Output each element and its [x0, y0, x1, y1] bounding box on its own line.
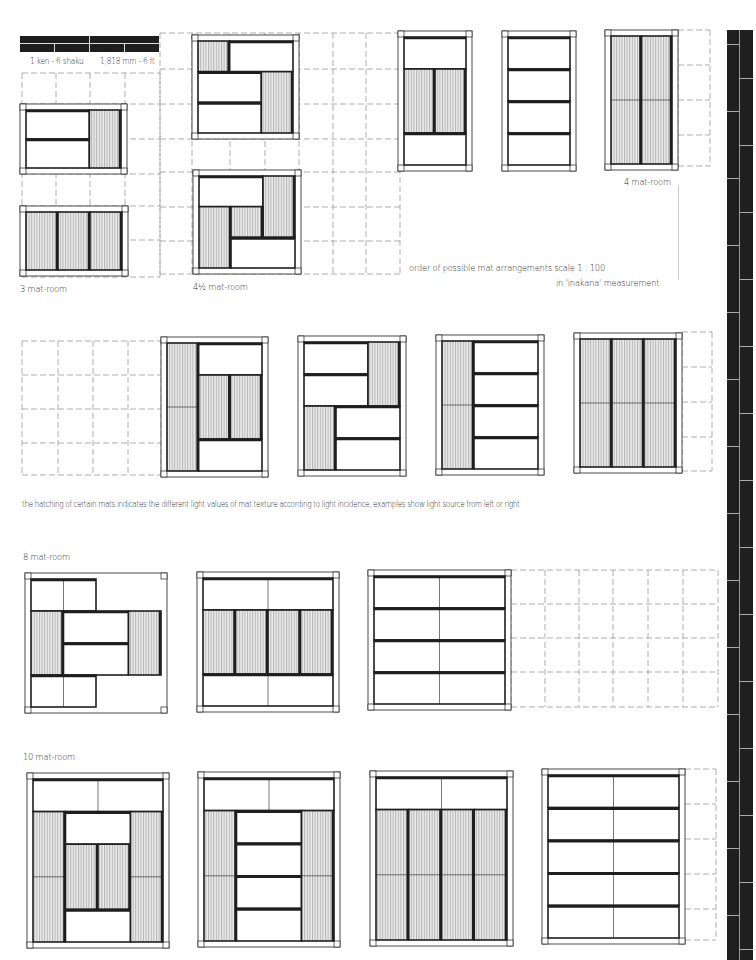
- room-plan-r8c: [368, 570, 511, 710]
- corner-post: [198, 941, 204, 947]
- corner-post: [198, 772, 204, 778]
- diagram-canvas: [0, 0, 756, 960]
- mat-plain: [508, 69, 570, 101]
- mat-plain: [304, 374, 368, 406]
- grid-g-10-right: [685, 769, 716, 940]
- mat-hatched: [435, 69, 466, 133]
- corner-post: [436, 469, 442, 475]
- corner-post: [20, 206, 26, 212]
- edge-bar-tick: [727, 714, 739, 715]
- edge-bar-tick: [739, 815, 753, 816]
- room-plans: [20, 30, 685, 948]
- grid-g-top-right: [678, 30, 710, 166]
- corner-post: [27, 942, 33, 948]
- label-4-mat-room: 4 mat-room: [624, 177, 671, 187]
- corner-post: [466, 165, 472, 171]
- edge-bar-tick: [739, 212, 753, 213]
- corner-post: [262, 471, 268, 477]
- grid-g-mid-right: [682, 332, 712, 471]
- corner-post: [676, 467, 682, 473]
- mat-plain: [404, 133, 466, 165]
- mat-plain: [474, 405, 538, 437]
- mat-hatched: [90, 212, 122, 270]
- mat-plain: [237, 811, 302, 844]
- corner-post: [574, 333, 580, 339]
- corner-post: [197, 706, 203, 712]
- corner-post: [570, 165, 576, 171]
- mat-plain: [336, 406, 400, 438]
- corner-post: [161, 573, 167, 579]
- room-plan-r10b: [198, 772, 340, 947]
- edge-bar-tick: [739, 949, 753, 950]
- mat-plain: [64, 611, 129, 643]
- corner-post: [400, 470, 406, 476]
- mat-hatched: [58, 212, 90, 270]
- corner-post: [538, 469, 544, 475]
- corner-post: [25, 707, 31, 713]
- room-plan-r6a: [161, 337, 268, 477]
- corner-post: [672, 30, 678, 36]
- corner-post: [542, 938, 548, 944]
- mat-plain: [474, 437, 538, 469]
- edge-bar-tick: [727, 647, 739, 648]
- edge-bar-tick: [739, 681, 753, 682]
- mat-plain: [64, 643, 129, 675]
- mat-hatched: [203, 610, 236, 674]
- corner-post: [679, 769, 685, 775]
- scale-bar: [20, 36, 159, 52]
- corner-post: [20, 104, 26, 110]
- corner-post: [370, 771, 376, 777]
- corner-post: [398, 31, 404, 37]
- corner-post: [605, 164, 611, 170]
- corner-post: [679, 938, 685, 944]
- corner-post: [192, 133, 198, 139]
- mat-plain: [237, 908, 302, 941]
- corner-post: [542, 769, 548, 775]
- label-inakana-measurement: in 'inakana' measurement: [556, 278, 659, 288]
- corner-post: [27, 773, 33, 779]
- scale-bar-tick: [89, 36, 90, 52]
- edge-bar-tick: [739, 145, 753, 146]
- edge-bar-tick: [739, 346, 753, 347]
- mat-hatched: [304, 406, 336, 470]
- mat-hatched: [98, 844, 131, 909]
- room-plan-r45a: [192, 35, 299, 139]
- label-order-scale: order of possible mat arrangements scale…: [409, 263, 605, 273]
- corner-post: [398, 165, 404, 171]
- mat-plain: [198, 72, 261, 103]
- corner-post: [505, 570, 511, 576]
- decorative-edge-bar: [727, 30, 753, 960]
- mat-plain: [26, 139, 89, 168]
- room-plan-r6c: [436, 335, 544, 475]
- mat-hatched: [301, 610, 334, 674]
- mat-hatched: [236, 610, 269, 674]
- mat-plain: [508, 101, 570, 133]
- mat-hatched: [26, 212, 58, 270]
- mat-hatched: [198, 41, 230, 72]
- room-plan-r4a: [398, 31, 472, 171]
- edge-bar-tick: [739, 748, 753, 749]
- corner-post: [121, 104, 127, 110]
- corner-post: [295, 268, 301, 274]
- mat-plain: [66, 812, 131, 845]
- room-plan-r6d: [574, 333, 682, 473]
- corner-post: [502, 31, 508, 37]
- mat-plain: [198, 102, 261, 133]
- edge-bar-line: [739, 30, 740, 960]
- scale-bar-tick: [124, 43, 125, 52]
- grid-g-mid-left: [22, 341, 161, 475]
- corner-post: [121, 168, 127, 174]
- scale-bar-tick: [54, 43, 55, 52]
- mat-arrangement-diagram: [0, 0, 756, 960]
- corner-post: [333, 572, 339, 578]
- corner-post: [192, 35, 198, 41]
- edge-bar-tick: [739, 547, 753, 548]
- corner-post: [262, 337, 268, 343]
- grid-g-8-right: [511, 570, 718, 707]
- corner-post: [538, 335, 544, 341]
- edge-bar-tick: [727, 580, 739, 581]
- edge-bar-tick: [727, 781, 739, 782]
- corner-post: [298, 470, 304, 476]
- mat-hatched: [368, 342, 400, 406]
- mat-plain: [474, 373, 538, 405]
